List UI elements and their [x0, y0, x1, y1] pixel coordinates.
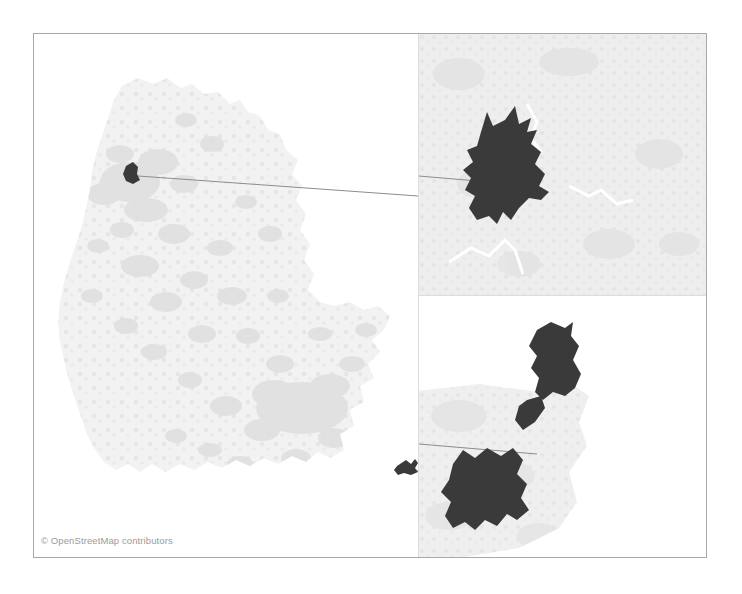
inset-panel-bury-north[interactable]: Bury North MP: David Nuttall (Con) 2010 …	[419, 34, 707, 295]
osm-attribution: © OpenStreetMap contributors	[38, 534, 176, 547]
inset-map-canvas-south-thanet	[419, 296, 707, 557]
inset-map-canvas-bury-north	[419, 34, 707, 295]
figure-frame: © OpenStreetMap contributors	[33, 33, 707, 558]
map-figure: © OpenStreetMap contributors	[0, 0, 742, 594]
inset-panel-south-thanet[interactable]: South Thanet MP: Laura Sandys (Con) 2010…	[419, 296, 707, 557]
main-map-canvas	[34, 34, 418, 557]
main-map-panel[interactable]: © OpenStreetMap contributors	[34, 34, 418, 557]
